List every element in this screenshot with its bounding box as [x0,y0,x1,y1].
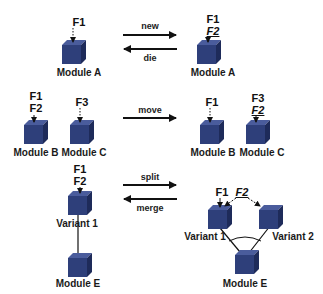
module-e-label-right: Module E [223,278,267,289]
new-label: new [141,21,159,31]
variant1-cube-left [68,191,92,215]
module-b-label-right: Module B [191,147,236,158]
module-e-label-left: Module E [56,278,100,289]
module-a-cube-left [62,40,86,64]
module-e-cube-right [235,250,259,274]
feature-f2-moved: F2 [252,104,265,116]
feature-f1: F1 [73,16,86,28]
module-a-cube-right [197,40,221,64]
module-b-label-left: Module B [14,147,59,158]
module-c-cube-left [70,120,94,144]
module-a-label-left: Module A [57,67,102,78]
split-dashed-arrow-left [225,198,236,206]
module-c-cube-right [246,120,270,144]
die-label: die [143,53,156,63]
variant2-cube-right [259,205,283,229]
feature-f1: F1 [207,13,220,25]
feature-f3: F3 [252,92,265,104]
module-b-cube-right [200,120,224,144]
variant1-label-right: Variant 1 [184,231,226,242]
split-label: split [141,172,160,182]
feature-f1: F1 [74,163,87,175]
module-c-label-left: Module C [62,147,107,158]
feature-f1: F1 [216,186,229,198]
feature-f1: F1 [206,96,219,108]
feature-f1: F1 [30,90,43,102]
move-label: move [138,105,162,115]
module-a-label-right: Module A [191,67,236,78]
feature-f2: F2 [30,102,43,114]
merge-label: merge [136,203,163,213]
module-b-cube-left [24,120,48,144]
feature-f3: F3 [76,96,89,108]
variant1-label-left: Variant 1 [56,218,98,229]
feature-f2: F2 [74,175,87,187]
feature-f2-new: F2 [207,25,220,37]
module-c-label-right: Module C [240,147,285,158]
feature-f2-split: F2 [236,186,249,198]
variant1-cube-right [208,205,232,229]
module-e-cube-left [68,253,92,277]
variant2-label-right: Variant 2 [272,231,314,242]
split-dashed-arrow-right [248,198,260,206]
